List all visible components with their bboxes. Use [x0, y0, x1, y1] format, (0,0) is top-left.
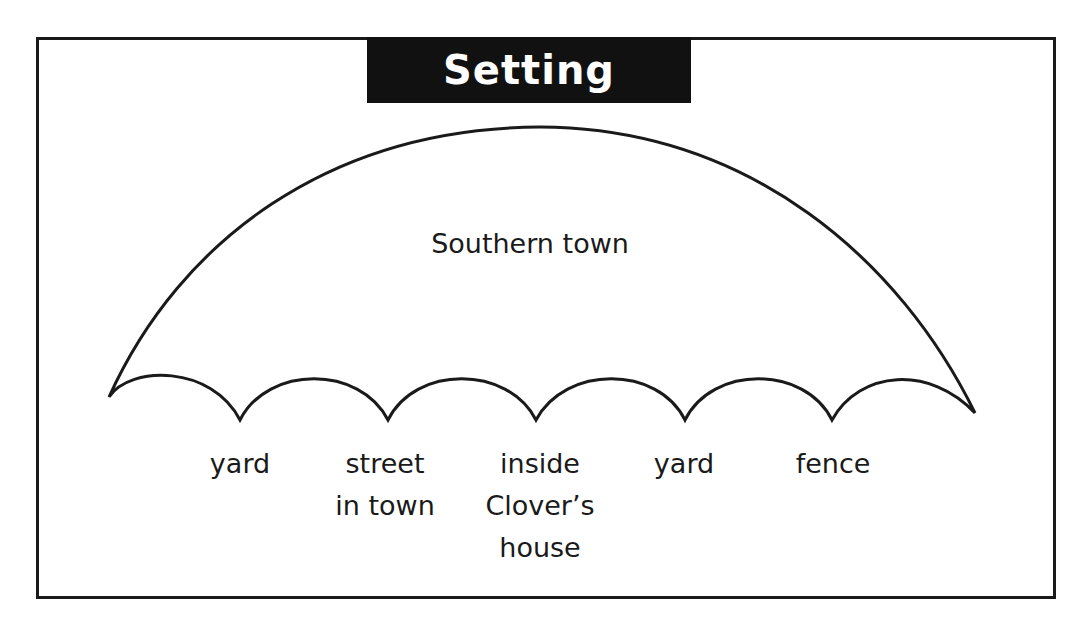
- sub-setting-yard-1: yard: [210, 443, 270, 485]
- sub-setting-line: yard: [210, 443, 270, 485]
- sub-setting-line: house: [485, 527, 594, 569]
- sub-setting-fence: fence: [796, 443, 871, 485]
- sub-setting-line: fence: [796, 443, 871, 485]
- sub-setting-line: in town: [335, 485, 435, 527]
- sub-setting-line: inside: [485, 443, 594, 485]
- sub-setting-inside-clovers-house: inside Clover’s house: [485, 443, 594, 569]
- sub-setting-yard-2: yard: [654, 443, 714, 485]
- sub-setting-line: Clover’s: [485, 485, 594, 527]
- sub-setting-street-in-town: street in town: [335, 443, 435, 527]
- sub-setting-line: yard: [654, 443, 714, 485]
- sub-setting-line: street: [335, 443, 435, 485]
- main-setting-label: Southern town: [431, 228, 629, 259]
